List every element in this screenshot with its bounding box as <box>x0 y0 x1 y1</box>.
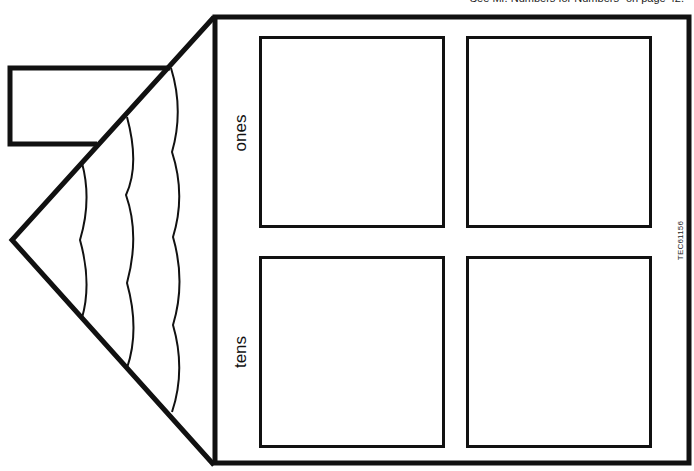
roof <box>12 17 214 465</box>
roof-scallop-3 <box>171 68 180 412</box>
chimney <box>10 68 170 144</box>
tens-left-box <box>259 256 445 448</box>
roof-scallop-1 <box>80 163 87 318</box>
ones-right-box <box>466 36 652 228</box>
tens-right-box <box>466 256 652 448</box>
tens-label: tens <box>231 327 251 377</box>
roof-scallop-2 <box>126 117 134 368</box>
ones-label: ones <box>231 108 251 158</box>
ones-left-box <box>259 36 445 228</box>
product-code: TEC61156 <box>676 211 685 271</box>
